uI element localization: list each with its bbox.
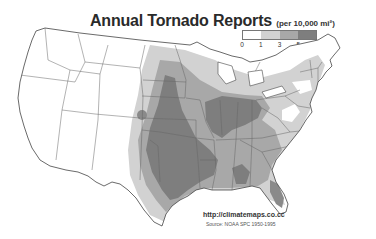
us-map [0, 0, 376, 239]
credit-url: http://climatemaps.co.cc [203, 211, 285, 218]
credit-source: Source: NOAA SPC 1950-1995 [206, 221, 276, 227]
